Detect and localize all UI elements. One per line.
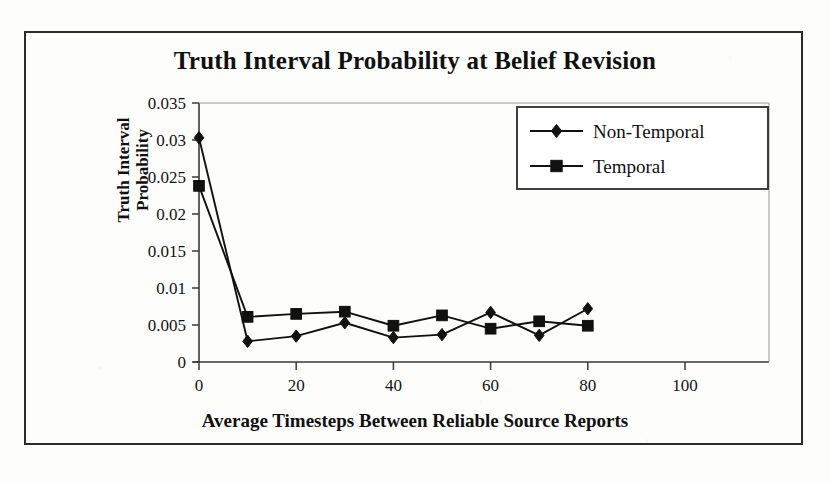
x-tick-label: 40 <box>385 376 402 395</box>
y-tick-label: 0.025 <box>148 168 186 187</box>
x-tick-label: 100 <box>672 376 698 395</box>
legend-label: Non-Temporal <box>593 121 705 142</box>
data-point-marker <box>243 335 253 347</box>
y-tick-label: 0.035 <box>148 94 186 113</box>
y-tick-label: 0.005 <box>148 316 186 335</box>
data-point-marker <box>388 320 399 331</box>
x-tick-label: 20 <box>288 376 305 395</box>
data-point-marker <box>486 306 496 318</box>
data-point-marker <box>389 331 399 343</box>
data-point-marker <box>534 329 544 341</box>
data-point-marker <box>583 303 593 315</box>
x-tick-mark-group <box>199 362 685 370</box>
data-point-marker <box>242 312 253 323</box>
legend-marker-square-icon <box>551 160 562 171</box>
y-tick-label-group: 00.0050.010.0150.020.0250.030.035 <box>148 94 186 372</box>
data-point-marker <box>340 317 350 329</box>
legend-label: Temporal <box>593 156 666 177</box>
scanned-figure-page: Truth Interval Probability at Belief Rev… <box>0 0 830 484</box>
chart-legend[interactable]: Non-TemporalTemporal <box>517 107 768 189</box>
data-point-marker <box>291 309 302 320</box>
data-point-marker <box>194 181 205 192</box>
data-point-marker <box>339 306 350 317</box>
y-tick-label: 0.01 <box>156 279 186 298</box>
x-tick-label: 60 <box>482 376 499 395</box>
y-tick-label: 0 <box>178 353 187 372</box>
y-tick-label: 0.02 <box>156 205 186 224</box>
x-tick-label-group: 020406080100 <box>195 376 698 395</box>
data-point-marker <box>534 316 545 327</box>
y-tick-label: 0.015 <box>148 242 186 261</box>
data-point-marker <box>437 310 448 321</box>
series-line <box>199 186 588 329</box>
chart-plot-area: 00.0050.010.0150.020.0250.030.035 020406… <box>0 0 830 484</box>
data-point-marker <box>437 328 447 340</box>
data-point-marker <box>194 132 204 144</box>
series-temporal <box>194 181 593 334</box>
data-point-marker <box>485 323 496 334</box>
x-tick-label: 80 <box>579 376 596 395</box>
y-tick-label: 0.03 <box>156 131 186 150</box>
data-point-marker <box>582 320 593 331</box>
x-tick-label: 0 <box>195 376 204 395</box>
data-point-marker <box>291 330 301 342</box>
